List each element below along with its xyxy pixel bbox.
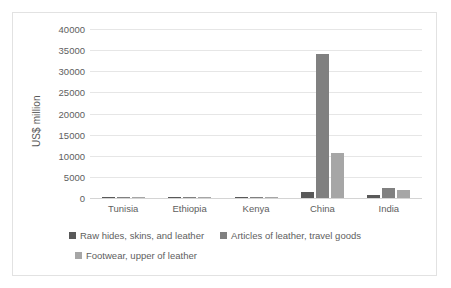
legend-label: Raw hides, skins, and leather bbox=[80, 230, 204, 241]
y-axis-tick-label: 20000 bbox=[43, 108, 85, 119]
y-axis-tick-labels: 4000035000300002500020000150001000050000 bbox=[43, 23, 85, 208]
bar[interactable] bbox=[331, 153, 344, 198]
legend-swatch-icon bbox=[220, 232, 227, 239]
y-axis-tick-label: 0 bbox=[43, 193, 85, 204]
legend-swatch-icon bbox=[69, 232, 76, 239]
bar[interactable] bbox=[132, 197, 145, 198]
bar[interactable] bbox=[183, 197, 196, 198]
bar[interactable] bbox=[382, 188, 395, 198]
bar-group bbox=[289, 29, 355, 198]
bar[interactable] bbox=[102, 197, 115, 198]
bar[interactable] bbox=[168, 197, 181, 198]
legend-swatch-icon bbox=[75, 252, 82, 259]
bar-group bbox=[156, 29, 222, 198]
legend-item[interactable]: Articles of leather, travel goods bbox=[220, 225, 361, 245]
bar-groups bbox=[90, 29, 422, 198]
bar[interactable] bbox=[117, 197, 130, 198]
chart-container: US$ million 4000035000300002500020000150… bbox=[12, 12, 437, 276]
bar-group bbox=[90, 29, 156, 198]
y-axis-tick-label: 5000 bbox=[43, 171, 85, 182]
plot-wrapper: US$ million 4000035000300002500020000150… bbox=[13, 13, 436, 275]
x-axis-tick-label: Kenya bbox=[223, 203, 289, 219]
chart-legend: Raw hides, skins, and leatherArticles of… bbox=[69, 225, 426, 265]
legend-label: Articles of leather, travel goods bbox=[231, 230, 361, 241]
y-axis-tick-label: 25000 bbox=[43, 87, 85, 98]
bar[interactable] bbox=[367, 195, 380, 198]
x-axis-tick-label: China bbox=[289, 203, 355, 219]
bar-group bbox=[356, 29, 422, 198]
y-axis-tick-label: 40000 bbox=[43, 24, 85, 35]
legend-item[interactable]: Footwear, upper of leather bbox=[75, 245, 410, 265]
y-axis-tick-label: 10000 bbox=[43, 150, 85, 161]
plot-area bbox=[90, 29, 422, 198]
bar[interactable] bbox=[235, 197, 248, 198]
x-axis-tick-label: Ethiopia bbox=[156, 203, 222, 219]
bar[interactable] bbox=[316, 54, 329, 198]
bar[interactable] bbox=[198, 197, 211, 198]
y-axis-tick-label: 30000 bbox=[43, 66, 85, 77]
bar-group bbox=[223, 29, 289, 198]
axis-baseline bbox=[90, 198, 422, 199]
x-axis-tick-label: Tunisia bbox=[90, 203, 156, 219]
bar[interactable] bbox=[301, 192, 314, 198]
x-axis-tick-labels: TunisiaEthiopiaKenyaChinaIndia bbox=[90, 203, 422, 219]
bar[interactable] bbox=[397, 190, 410, 198]
bar[interactable] bbox=[265, 197, 278, 198]
x-axis-tick-label: India bbox=[356, 203, 422, 219]
y-axis-tick-label: 15000 bbox=[43, 129, 85, 140]
legend-item[interactable]: Raw hides, skins, and leather bbox=[69, 225, 204, 245]
bar[interactable] bbox=[250, 197, 263, 198]
legend-label: Footwear, upper of leather bbox=[86, 250, 197, 261]
y-axis-tick-label: 35000 bbox=[43, 45, 85, 56]
